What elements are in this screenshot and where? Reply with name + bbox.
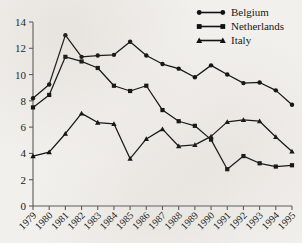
y-tick-label: 6 [21,121,27,133]
data-point [176,66,180,70]
y-tick-label: 4 [21,147,27,159]
data-point [290,163,294,167]
y-tick-label: 10 [15,69,27,81]
data-point [193,124,197,128]
legend-label-italy: Italy [231,35,251,46]
y-tick-label: 8 [21,95,27,107]
data-point [160,62,164,66]
data-point [241,154,245,158]
line-chart: 0246810121419791980198119821983198419851… [0,0,302,243]
data-point [79,55,83,59]
y-tick-label: 2 [21,174,27,186]
data-point [128,89,132,93]
y-tick-label: 0 [21,200,27,212]
data-point [257,80,261,84]
data-point [31,105,35,109]
data-point [225,167,229,171]
data-point [290,103,294,107]
data-point [144,84,148,88]
data-point [177,119,181,123]
data-point [128,40,132,44]
legend-label-belgium: Belgium [231,7,269,18]
data-point [31,96,35,100]
data-point [63,55,67,59]
square-marker-icon [196,21,226,32]
data-point [144,136,149,141]
y-tick-label: 14 [15,16,27,28]
data-point [274,88,278,92]
data-point [112,53,116,57]
circle-marker-icon [196,7,226,18]
series-italy [30,111,294,161]
data-point [241,81,245,85]
x-tick-label: 1995 [275,210,297,232]
data-point [47,82,51,86]
data-point [274,164,278,168]
data-point [193,75,197,79]
data-point [112,84,116,88]
data-point [258,161,262,165]
legend-item-italy: Italy [196,34,300,47]
chart-legend: Belgium Netherlands Italy [196,6,300,48]
data-point [63,33,67,37]
data-point [144,53,148,57]
y-tick-label: 12 [15,42,26,54]
legend-label-netherlands: Netherlands [231,21,284,32]
data-point [225,72,229,76]
data-point [160,126,165,131]
triangle-marker-icon [196,35,226,46]
data-point [96,53,100,57]
legend-item-netherlands: Netherlands [196,20,300,33]
data-point [209,63,213,67]
series-netherlands [31,55,294,172]
data-point [160,108,164,112]
data-point [96,66,100,70]
data-point [47,93,51,97]
data-point [79,59,83,63]
data-point [79,111,84,116]
legend-item-belgium: Belgium [196,6,300,19]
